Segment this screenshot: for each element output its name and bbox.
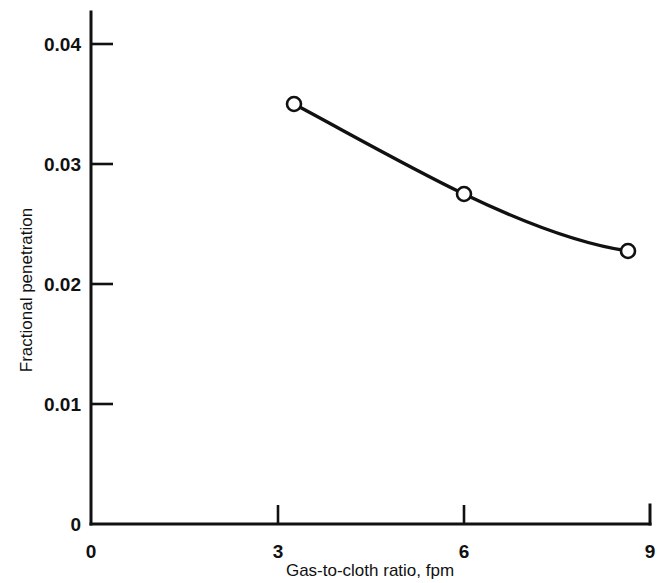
x-tick-label-0: 0	[86, 541, 97, 562]
y-tick-labels: 0.04 0.03 0.02 0.01 0	[44, 34, 81, 535]
y-tick-label-0.04: 0.04	[44, 34, 81, 55]
data-point-marker	[287, 97, 301, 111]
axis-lines	[91, 12, 650, 524]
data-series-fractional-penetration	[287, 97, 635, 258]
x-tick-label-3: 3	[273, 541, 284, 562]
y-tick-label-0.02: 0.02	[44, 274, 81, 295]
x-tick-labels: 0 3 6 9	[86, 541, 656, 562]
x-tick-label-9: 9	[645, 541, 656, 562]
y-tick-label-0.03: 0.03	[44, 154, 81, 175]
line-chart: 0.04 0.03 0.02 0.01 0 0 3 6 9 Gas-to-clo…	[0, 0, 665, 583]
y-tick-marks	[91, 44, 113, 404]
x-axis-title: Gas-to-cloth ratio, fpm	[286, 561, 454, 580]
x-tick-marks	[278, 505, 464, 524]
y-tick-label-0: 0	[70, 514, 81, 535]
data-point-marker	[621, 244, 635, 258]
x-tick-label-6: 6	[459, 541, 470, 562]
y-tick-label-0.01: 0.01	[44, 394, 81, 415]
chart-figure: 0.04 0.03 0.02 0.01 0 0 3 6 9 Gas-to-clo…	[0, 0, 665, 583]
data-line	[294, 104, 628, 251]
y-axis-title: Fractional penetration	[17, 208, 36, 372]
data-point-marker	[457, 187, 471, 201]
